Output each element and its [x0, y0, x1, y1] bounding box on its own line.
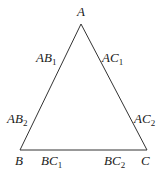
triangle-diagram: A B C AB1 AB2 AC1 AC2 BC1 BC2 [0, 0, 164, 175]
edge-label-ab2: AB2 [6, 111, 27, 128]
vertex-label-b: B [15, 153, 23, 168]
vertex-label-a: A [76, 4, 85, 19]
edge-label-bc1: BC1 [41, 153, 62, 170]
edge-label-ac2: AC2 [133, 111, 155, 128]
edge-label-ac1: AC1 [101, 50, 123, 67]
edge-label-ab1: AB1 [35, 50, 56, 67]
edge-label-bc2: BC2 [104, 153, 125, 170]
triangle-abc [20, 24, 147, 150]
vertex-label-c: C [141, 153, 150, 168]
